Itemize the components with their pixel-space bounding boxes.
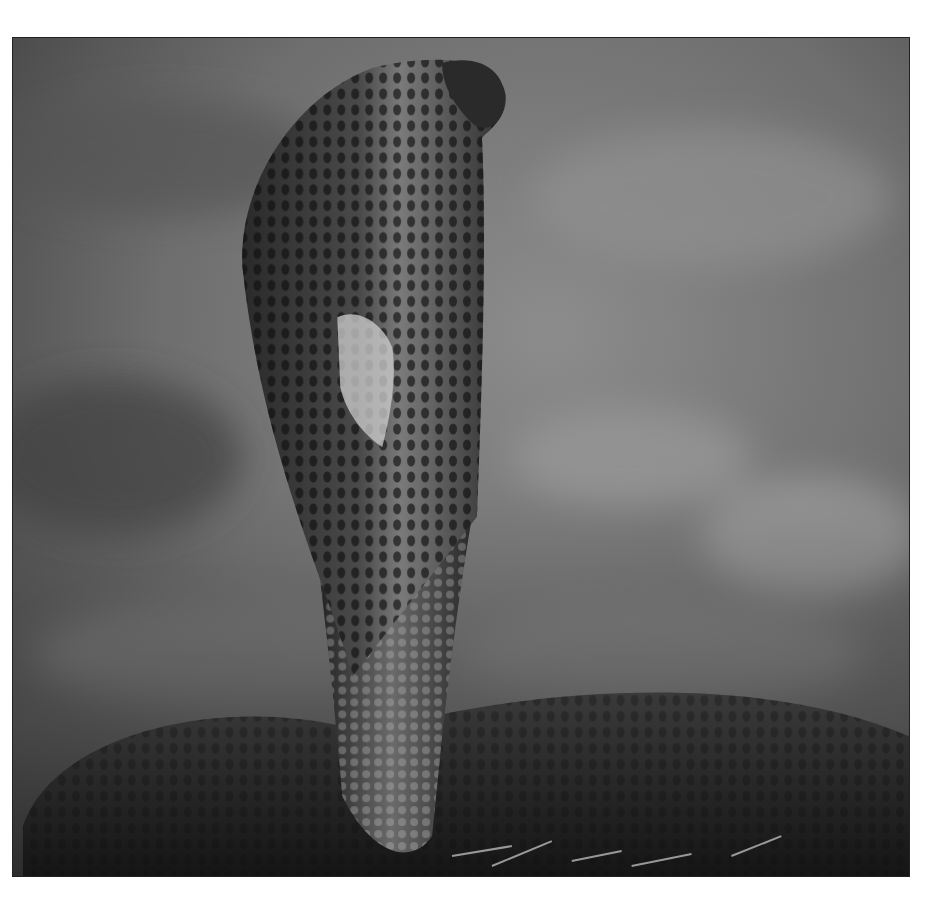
cobra-photo bbox=[13, 38, 909, 876]
photo bbox=[12, 37, 910, 877]
